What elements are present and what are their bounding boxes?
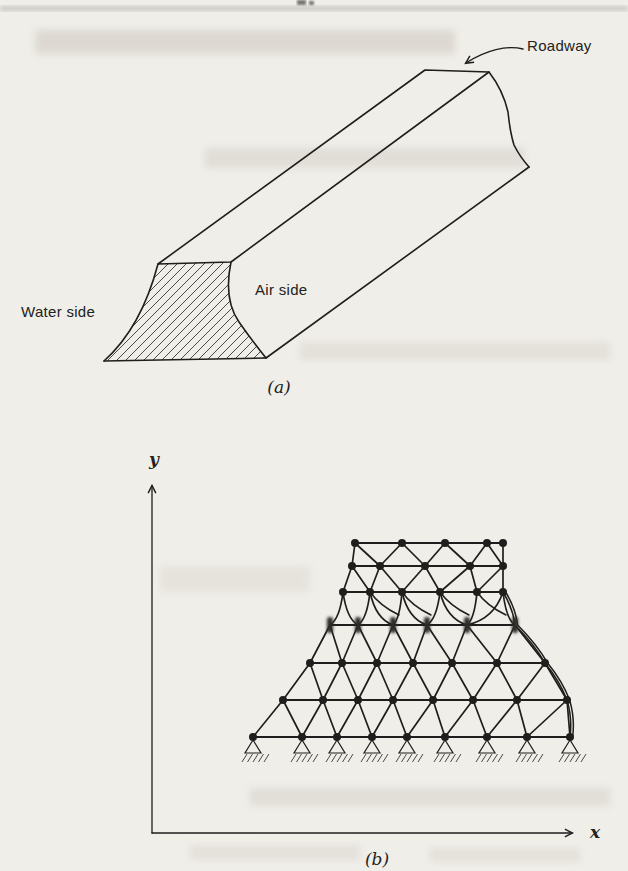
mesh-edge — [342, 663, 358, 700]
support-hatch-line — [445, 754, 450, 762]
mesh-edge — [427, 625, 452, 663]
pin-support-icon — [516, 740, 543, 762]
mesh-edge — [402, 543, 425, 566]
support-triangle — [364, 740, 380, 753]
pin-support-icon — [559, 740, 586, 762]
mesh-edge — [473, 700, 487, 737]
mesh-node — [351, 539, 359, 547]
bleed-through-artifact — [300, 342, 610, 360]
mesh-node — [338, 659, 346, 667]
mesh-node — [436, 588, 444, 596]
support-hatch-line — [372, 754, 377, 762]
roadway-leader-arrow-icon — [466, 48, 523, 63]
support-hatch-line — [402, 754, 407, 762]
support-triangle — [329, 740, 345, 753]
mesh-node-blurred — [464, 617, 470, 633]
bleed-through-artifact — [190, 845, 360, 860]
dam-lower-edge — [266, 167, 529, 358]
support-hatch-line — [565, 754, 570, 762]
support-hatch-line — [264, 754, 269, 762]
support-hatch-line — [313, 754, 318, 762]
mesh-node — [409, 659, 417, 667]
pin-support-icon — [434, 740, 461, 762]
pin-support-icon — [291, 740, 318, 762]
mesh-edge — [487, 700, 517, 737]
mesh-edge — [467, 625, 497, 663]
figure-b-axes — [152, 486, 572, 833]
mesh-node — [279, 696, 287, 704]
mesh-node — [398, 539, 406, 547]
support-hatch-line — [361, 754, 366, 762]
support-hatch-line — [451, 754, 456, 762]
mesh-edge — [370, 592, 399, 615]
mesh-edge — [352, 566, 370, 592]
support-hatch-line — [570, 754, 575, 762]
x-axis-label: x — [590, 822, 600, 842]
mesh-edge — [323, 700, 337, 737]
mesh-edge — [425, 543, 445, 566]
mesh-edge — [310, 625, 330, 663]
mesh-edge — [393, 700, 407, 737]
mesh-edge — [487, 543, 503, 566]
mesh-node — [354, 696, 362, 704]
support-hatch-line — [332, 754, 337, 762]
mesh-node-blurred — [327, 617, 333, 633]
mesh-node — [366, 588, 374, 596]
mesh-node — [473, 588, 481, 596]
support-hatch-line — [498, 754, 503, 762]
support-hatch-line — [348, 754, 353, 762]
support-hatch-line — [396, 754, 401, 762]
mesh-node — [429, 696, 437, 704]
mesh-edge — [372, 700, 393, 737]
roadway-label: Roadway — [527, 37, 592, 54]
mesh-node — [441, 539, 449, 547]
mesh-node — [389, 696, 397, 704]
mesh-node — [421, 562, 429, 570]
mesh-edge — [497, 663, 517, 700]
mesh-node — [499, 539, 507, 547]
support-triangle — [437, 740, 453, 753]
support-hatch-line — [383, 754, 388, 762]
mesh-edge — [477, 566, 503, 592]
mesh-edge — [393, 663, 413, 700]
support-hatch-line — [302, 754, 307, 762]
mesh-node — [306, 659, 314, 667]
mesh-edge — [358, 663, 377, 700]
mesh-edge — [393, 625, 413, 663]
bleed-through-artifact — [35, 30, 455, 54]
support-hatch-line — [308, 754, 313, 762]
mesh-edge — [517, 700, 527, 737]
support-hatch-line — [407, 754, 412, 762]
mesh-node-blurred — [390, 617, 396, 633]
mesh-node-blurred — [512, 617, 518, 633]
mesh-edge — [470, 566, 477, 592]
mesh-edge — [433, 700, 445, 737]
support-hatch-line — [378, 754, 383, 762]
scan-artifacts — [0, 0, 628, 862]
figure-a-caption: (a) — [267, 377, 290, 397]
support-hatch-line — [337, 754, 342, 762]
support-hatch-line — [559, 754, 564, 762]
mesh-edge — [433, 663, 452, 700]
support-hatch-line — [576, 754, 581, 762]
support-hatch-line — [476, 754, 481, 762]
mesh-node-blurred — [424, 617, 430, 633]
mesh-node-blurred — [355, 617, 361, 633]
support-hatch-line — [291, 754, 296, 762]
support-triangle — [245, 740, 261, 753]
mesh-node — [563, 696, 571, 704]
support-hatch-line — [248, 754, 253, 762]
support-hatch-line — [527, 754, 532, 762]
support-hatch-line — [367, 754, 372, 762]
mesh-edge — [253, 700, 283, 737]
figure-b-caption: (b) — [365, 849, 389, 869]
bleed-through-artifact — [250, 788, 610, 806]
support-hatch-line — [413, 754, 418, 762]
mesh-node — [469, 696, 477, 704]
support-hatch-line — [456, 754, 461, 762]
mesh-right-boundary-curve — [506, 592, 574, 737]
support-hatch-line — [487, 754, 492, 762]
mesh-edge — [283, 700, 302, 737]
mesh-node — [373, 659, 381, 667]
y-axis-label: y — [149, 449, 159, 469]
